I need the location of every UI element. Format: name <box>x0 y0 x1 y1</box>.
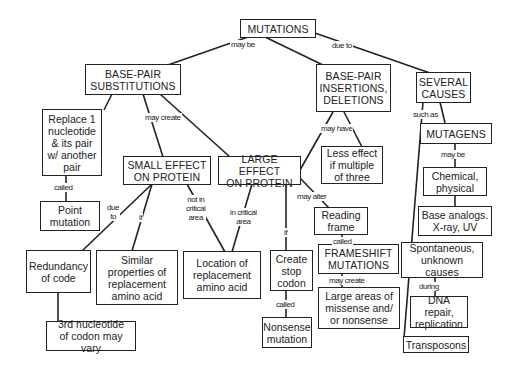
node-small-effect: SMALL EFFECT ON PROTEIN <box>123 156 211 185</box>
node-less-effect: Less effect if multiple of three <box>321 146 383 184</box>
node-dna-repair: DNA repair, replication <box>410 296 468 328</box>
concept-map: MUTATIONS BASE-PAIR SUBSTITUTIONS BASE-P… <box>0 0 510 366</box>
link-label-may-create-sub: may create <box>144 113 182 122</box>
link-label-called-nonsense: called <box>275 300 296 309</box>
link-label-not-in-critical-area: not in critical area <box>185 195 206 222</box>
link-label-if-small: if <box>138 213 143 222</box>
node-create-stop-codon: Create stop codon <box>270 250 313 291</box>
link-label-in-critical-area: in critical area <box>229 208 258 226</box>
node-similar-properties: Similar properties of replacement amino … <box>96 250 178 305</box>
link-label-may-be: may be <box>230 40 256 49</box>
link-label-such-as: such as <box>412 110 439 119</box>
node-transposons: Transposons <box>403 336 469 353</box>
node-several-causes: SEVERAL CAUSES <box>416 72 471 103</box>
link-label-during: during <box>418 282 440 291</box>
node-mutations: MUTATIONS <box>240 19 316 38</box>
node-nonsense-mutation: Nonsense mutation <box>262 317 312 348</box>
link-label-called-frame: called <box>332 237 353 246</box>
node-location-replacement: Location of replacement amino acid <box>183 251 261 299</box>
link-label-may-have: may have <box>320 124 353 133</box>
node-chemical-physical: Chemical, physical <box>423 167 487 196</box>
link-label-due-to-small: due to <box>106 203 120 221</box>
link-label-may-be-mutagens: may be <box>440 150 466 159</box>
node-mutagens: MUTAGENS <box>420 123 492 144</box>
node-frameshift-mutations: FRAMESHIFT MUTATIONS <box>318 244 399 274</box>
node-third-nucleotide: 3rd nucleotide of codon may vary <box>46 321 136 351</box>
node-spontaneous-causes: Spontaneous, unknown causes <box>401 242 483 278</box>
node-base-pair-insertions-deletions: BASE-PAIR INSERTIONS, DELETIONS <box>316 64 391 112</box>
link-label-may-create-frame: may create <box>328 276 366 285</box>
link-label-called-point: called <box>53 183 74 192</box>
link-label-due-to-top: due to <box>331 41 353 50</box>
node-reading-frame: Reading frame <box>314 207 368 235</box>
node-large-areas: Large areas of missense and/ or nonsense <box>318 287 400 329</box>
node-base-pair-substitutions: BASE-PAIR SUBSTITUTIONS <box>85 64 181 95</box>
node-large-effect: LARGE EFFECT ON PROTEIN <box>218 156 301 185</box>
node-base-analogs: Base analogs. X-ray, UV <box>418 206 492 236</box>
node-replace-nucleotide: Replace 1 nucleotide & its pair w/ anoth… <box>42 109 102 176</box>
node-redundancy-of-code: Redundancy of code <box>26 250 91 293</box>
link-label-may-alter: may alter <box>296 192 327 201</box>
node-point-mutation: Point mutation <box>40 201 100 231</box>
link-label-if-large: if <box>283 228 288 237</box>
